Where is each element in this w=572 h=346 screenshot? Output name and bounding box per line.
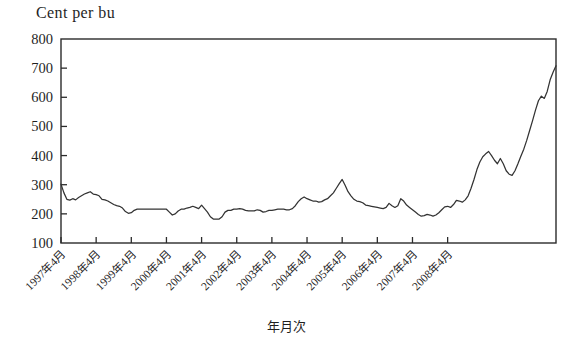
y-tick-label: 800 bbox=[31, 31, 53, 47]
y-tick-label: 400 bbox=[31, 148, 53, 164]
line-chart-plot: 100200300400500600700800 1997年4月1998年4月1… bbox=[0, 0, 572, 346]
y-tick-label: 600 bbox=[31, 89, 53, 105]
plot-area-border bbox=[61, 39, 556, 243]
plot-frame bbox=[61, 39, 556, 243]
y-tick-label: 300 bbox=[31, 177, 53, 193]
y-tick-label: 700 bbox=[31, 60, 53, 76]
y-tick-label: 500 bbox=[31, 118, 53, 134]
x-axis-title: 年月次 bbox=[0, 316, 572, 335]
y-tick-label: 100 bbox=[31, 235, 53, 251]
x-axis-tick-labels: 1997年4月1998年4月1999年4月2000年4月2001年4月2002年… bbox=[22, 247, 454, 292]
y-tick-label: 200 bbox=[31, 206, 53, 222]
chart-figure: Cent per bu 100200300400500600700800 199… bbox=[0, 0, 572, 346]
